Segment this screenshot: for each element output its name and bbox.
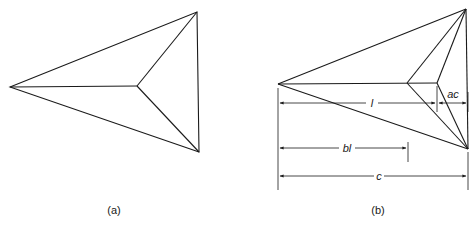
figure-b-upper-inner-edge [437, 9, 466, 83]
figure-b-planform [278, 9, 468, 149]
dimension-l: l [280, 97, 435, 109]
figure-a-planform [10, 12, 199, 152]
figure-a-upper-trailing-edge [137, 12, 197, 86]
dimension-bl: bl [280, 142, 406, 154]
dimension-bl-label: bl [343, 142, 352, 154]
figure-b-tip-chord [466, 9, 468, 149]
dimension-l-label: l [371, 97, 374, 109]
diagram-canvas: (a) l ac bl c (b) [0, 0, 476, 226]
figure-a-lower-trailing-edge [137, 86, 199, 152]
dimension-c: c [280, 170, 466, 182]
dimension-c-label: c [376, 170, 382, 182]
figure-b-upper-trailing-edge [407, 9, 466, 83]
figure-b-upper-leading-edge [278, 9, 466, 84]
figure-a-centerline [10, 86, 137, 87]
figure-a-outline [10, 12, 199, 152]
dimension-ac-label: ac [447, 88, 459, 100]
figure-b-caption: (b) [371, 204, 384, 216]
figure-b-centerline [278, 83, 437, 84]
figure-a-caption: (a) [107, 204, 120, 216]
figure-b-lower-leading-edge [278, 84, 468, 149]
